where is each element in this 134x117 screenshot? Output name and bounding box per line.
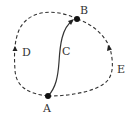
label-a: A [42, 102, 52, 115]
label-e: E [117, 63, 125, 76]
path-e [48, 19, 112, 96]
label-d: D [22, 46, 31, 59]
path-diagram: A B C D E [0, 0, 134, 117]
path-c [48, 21, 72, 96]
label-c: C [62, 45, 70, 58]
arrow-d-icon [13, 46, 18, 51]
label-b: B [80, 4, 88, 17]
node-a [45, 93, 51, 99]
